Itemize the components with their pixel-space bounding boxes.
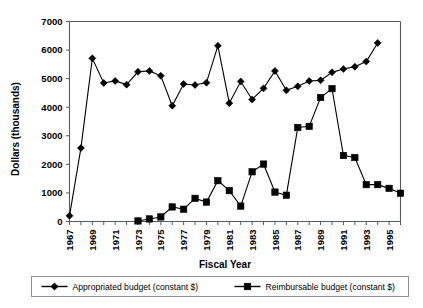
legend-label: Appropriated budget (constant $) [73,282,199,292]
x-tick-label: 1977 [178,230,189,251]
data-point-marker [397,190,403,196]
data-point-marker [169,204,175,210]
x-axis-title-group: Fiscal Year [199,259,251,270]
data-point-marker [112,77,119,84]
x-tick-label: 1971 [110,229,121,251]
data-point-marker [351,63,358,70]
x-tick-label: 1973 [133,230,144,251]
data-point-marker [89,55,96,62]
legend-marker-square-icon [244,283,251,290]
y-tick-label: 4000 [41,102,62,113]
data-point-marker [146,67,153,74]
data-point-marker [340,152,346,158]
data-point-marker [77,145,84,152]
chart-legend: Appropriated budget (constant $)Reimburs… [32,277,409,297]
data-point-marker [272,189,278,195]
data-point-marker [363,181,369,187]
x-axis-tick-labels: 1967196919711973197519771979198119831985… [64,229,395,251]
y-tick-label: 3000 [41,130,62,141]
plot-axes [70,22,401,222]
data-point-marker [260,161,266,167]
x-tick-label: 1975 [155,229,166,251]
data-point-marker [317,94,323,100]
data-point-marker [295,124,301,130]
data-point-marker [192,81,199,88]
data-point-marker [158,214,164,220]
x-tick-label: 1985 [270,229,281,251]
data-point-marker [237,78,244,85]
x-axis-title: Fiscal Year [199,259,251,270]
x-tick-label: 1987 [292,230,303,251]
y-axis-title: Dollars (thousands) [10,82,21,176]
data-point-marker [249,169,255,175]
data-point-marker [203,199,209,205]
chart-container: Dollars (thousands) 01000200030004000500… [0,0,423,308]
data-point-marker [374,39,381,46]
data-point-marker [146,216,152,222]
data-point-marker [180,206,186,212]
data-point-marker [306,123,312,129]
y-tick-label: 0 [57,216,62,227]
x-tick-label: 1969 [87,230,98,251]
x-tick-label: 1993 [361,230,372,251]
data-point-marker [157,72,164,79]
y-tick-label: 2000 [41,159,62,170]
y-tick-label: 6000 [41,44,62,55]
data-point-marker [283,87,290,94]
data-point-marker [214,42,221,49]
data-point-marker [169,102,176,109]
data-point-marker [329,85,335,91]
y-tick-label: 1000 [41,187,62,198]
x-tick-label: 1983 [247,230,258,251]
y-axis-tick-labels: 01000200030004000500060007000 [41,16,62,227]
data-series-layer [66,39,404,224]
data-point-marker [271,67,278,74]
data-point-marker [66,212,73,219]
series-1 [66,39,381,219]
data-point-marker [352,154,358,160]
legend-label: Reimbursable budget (constant $) [266,282,396,292]
series-line [138,89,401,221]
y-tick-label: 7000 [41,16,62,27]
data-point-marker [135,218,141,224]
x-tick-label: 1995 [384,229,395,251]
x-tick-label: 1981 [224,229,235,251]
data-point-marker [317,77,324,84]
data-point-marker [180,81,187,88]
x-tick-label: 1989 [315,230,326,251]
budget-line-chart: Dollars (thousands) 01000200030004000500… [0,0,423,308]
data-point-marker [306,77,313,84]
data-point-marker [283,192,289,198]
data-point-marker [226,100,233,107]
data-point-marker [192,195,198,201]
data-point-marker [203,79,210,86]
x-tick-label: 1979 [201,230,212,251]
data-point-marker [374,181,380,187]
data-point-marker [226,187,232,193]
data-point-marker [329,69,336,76]
data-point-marker [386,185,392,191]
data-point-marker [100,79,107,86]
data-point-marker [215,177,221,183]
series-line [70,43,378,216]
data-point-marker [363,58,370,65]
y-axis-title-group: Dollars (thousands) [10,82,21,176]
data-point-marker [238,203,244,209]
axis-frame [70,22,401,222]
data-point-marker [340,65,347,72]
y-tick-label: 5000 [41,73,62,84]
data-point-marker [294,83,301,90]
x-tick-label: 1967 [64,230,75,251]
x-tick-label: 1991 [338,229,349,251]
